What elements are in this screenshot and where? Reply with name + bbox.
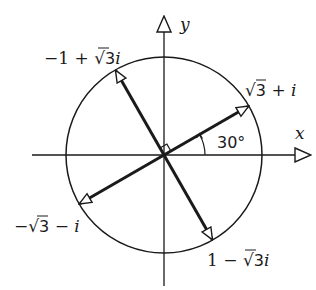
y-axis-label: y bbox=[179, 14, 190, 34]
vector-1-minus-sqrt3i bbox=[164, 155, 212, 239]
vector-neg-sqrt3-minus-i bbox=[80, 155, 164, 204]
label-neg-sqrt3-minus-i: −√3 − i bbox=[14, 216, 80, 236]
svg-text:√3 + i: √3 + i bbox=[245, 80, 297, 100]
svg-text:1 − √3i: 1 − √3i bbox=[207, 250, 269, 270]
x-axis-label: x bbox=[295, 123, 305, 143]
svg-text:−√3 − i: −√3 − i bbox=[14, 216, 80, 236]
angle-label: 30° bbox=[217, 133, 245, 152]
complex-plane-diagram: x y 30° √3 + i −1 + √3i −√3 − i 1 − √3i bbox=[0, 0, 316, 290]
label-1-minus-sqrt3i: 1 − √3i bbox=[207, 250, 269, 270]
vector-neg1-plus-sqrt3i bbox=[116, 71, 164, 155]
svg-text:−1 + √3i: −1 + √3i bbox=[44, 48, 121, 68]
label-sqrt3-plus-i: √3 + i bbox=[245, 80, 297, 100]
label-neg1-plus-sqrt3i: −1 + √3i bbox=[44, 48, 121, 68]
